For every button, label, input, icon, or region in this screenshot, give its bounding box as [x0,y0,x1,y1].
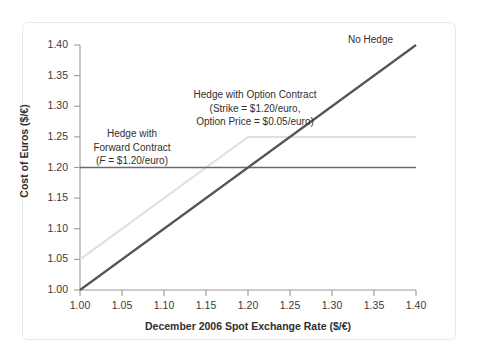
annotation-option-contract: Hedge with Option Contract (Strike = $1.… [150,88,360,129]
x-tick-label-6: 1.25 [270,299,310,311]
figure-page: 1.00 1.05 1.10 1.15 1.20 1.25 1.30 1.35 … [0,0,479,362]
y-tick-label-3: 1.10 [38,222,68,234]
x-axis-ticks [80,290,416,296]
x-tick-label-4: 1.15 [186,299,226,311]
annotation-option-line1: Hedge with Option Contract [150,88,360,102]
y-tick-label-7: 1.30 [38,99,68,111]
annotation-no-hedge-line1: No Hedge [348,33,393,47]
x-tick-label-7: 1.30 [312,299,352,311]
x-tick-label-5: 1.20 [228,299,268,311]
y-tick-label-4: 1.15 [38,191,68,203]
x-axis-title: December 2006 Spot Exchange Rate ($/€) [80,320,416,332]
annotation-forward-line2: Forward Contract [80,141,184,155]
y-tick-label-8: 1.35 [38,69,68,81]
annotation-option-line2: (Strike = $1.20/euro, [150,102,360,116]
annotation-forward-line1: Hedge with [80,127,184,141]
annotation-forward-contract: Hedge with Forward Contract (F = $1.20/e… [80,127,184,168]
x-tick-label-3: 1.10 [144,299,184,311]
y-tick-label-5: 1.20 [38,161,68,173]
x-tick-label-9: 1.40 [396,299,436,311]
x-tick-label-8: 1.35 [354,299,394,311]
x-tick-label-1: 1.00 [60,299,100,311]
y-tick-label-2: 1.05 [38,252,68,264]
chart-plot-area: 1.00 1.05 1.10 1.15 1.20 1.25 1.30 1.35 … [0,0,479,362]
x-tick-label-2: 1.05 [102,299,142,311]
y-tick-label-1: 1.00 [38,283,68,295]
annotation-no-hedge: No Hedge [348,33,393,47]
y-axis-ticks [74,45,80,290]
y-axis-title: Cost of Euros ($/€) [18,91,30,211]
y-tick-label-9: 1.40 [38,38,68,50]
annotation-forward-line3: (F = $1.20/euro) [80,154,184,168]
y-tick-label-6: 1.25 [38,130,68,142]
annotation-forward-value: = $1.20/euro) [105,155,168,166]
